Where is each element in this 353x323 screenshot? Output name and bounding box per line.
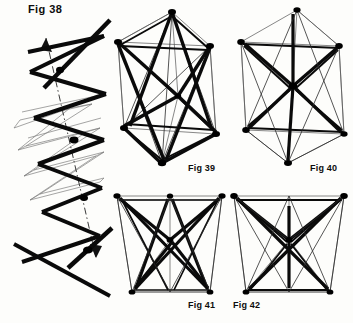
figure-42-drawing (230, 193, 348, 295)
figure-39-drawing (114, 9, 220, 166)
figure-42-label: Fig 42 (233, 301, 260, 310)
illustration-plate (0, 0, 353, 323)
figure-40-drawing (237, 7, 347, 166)
figure-38-label: Fig 38 (28, 4, 62, 15)
figure-38-drawing (14, 20, 112, 296)
figure-41-drawing (113, 193, 225, 294)
fig41-struts (120, 198, 219, 289)
figure-39-label: Fig 39 (188, 164, 215, 173)
figure-41-label: Fig 41 (188, 301, 215, 310)
figure-40-label: Fig 40 (310, 164, 337, 173)
